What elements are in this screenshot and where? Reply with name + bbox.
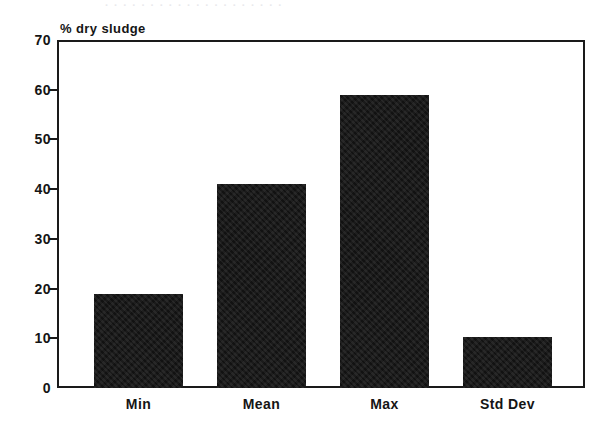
y-axis-labels-group: 010203040506070	[5, 0, 51, 429]
y-tick-label: 60	[11, 82, 51, 98]
y-axis-title: % dry sludge	[60, 21, 146, 36]
y-tick-label: 50	[11, 131, 51, 147]
bar-std-dev	[463, 337, 553, 388]
y-tick-label: 10	[11, 330, 51, 346]
bar-chart: % dry sludge 010203040506070 MinMeanMaxS…	[0, 0, 615, 429]
plot-area	[57, 40, 585, 388]
y-tick-label: 40	[11, 181, 51, 197]
x-tick-label: Std Dev	[446, 396, 569, 412]
bar-max	[340, 95, 430, 388]
y-tick-label: 20	[11, 281, 51, 297]
y-tick-label: 30	[11, 231, 51, 247]
bar-min	[94, 294, 184, 388]
x-tick-label: Max	[323, 396, 446, 412]
x-tick-label: Min	[77, 396, 200, 412]
y-tick-label: 70	[11, 32, 51, 48]
y-tick-label: 0	[11, 380, 51, 396]
x-tick-label: Mean	[200, 396, 323, 412]
bar-mean	[217, 184, 307, 388]
